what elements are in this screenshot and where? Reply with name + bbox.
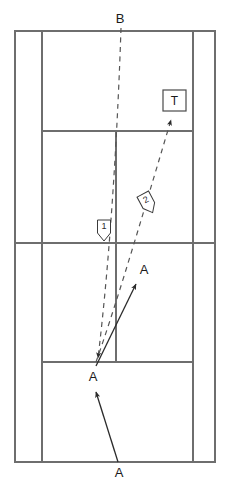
trajectory-solid-lower: [96, 392, 118, 462]
shot-marker-1[interactable]: 1: [98, 220, 111, 241]
label-a-upper: A: [140, 262, 149, 277]
shot-marker-1-label: 1: [101, 221, 106, 231]
trajectory-dashed-1: [98, 28, 121, 358]
position-label-layer: B A A A: [89, 11, 149, 480]
label-b-top: B: [116, 11, 125, 26]
trajectory-dashed-2: [96, 120, 171, 362]
shot-marker-layer: 1 2: [98, 191, 159, 241]
label-a-mid: A: [89, 369, 98, 384]
shot-marker-2[interactable]: 2: [137, 191, 158, 216]
target-t-label: T: [171, 94, 179, 108]
trajectory-layer: [96, 28, 171, 462]
target-t[interactable]: T: [163, 90, 186, 111]
label-a-bottom: A: [115, 465, 124, 480]
diagram-canvas: 1 2 T B A A A: [0, 0, 229, 502]
tennis-court-diagram: 1 2 T B A A A: [0, 0, 229, 502]
